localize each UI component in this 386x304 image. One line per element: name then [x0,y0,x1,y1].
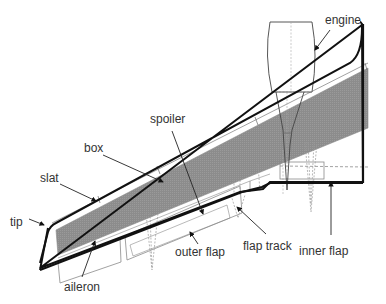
slat-leader [60,184,96,201]
label-inner-flap: inner flap [299,245,348,257]
label-tip: tip [10,216,23,228]
label-slat: slat [40,172,59,184]
flap-track-leader [237,207,266,234]
tip-leader [29,219,44,225]
box-leader [103,155,163,182]
label-engine: engine [325,14,361,26]
label-aileron: aileron [64,281,100,293]
label-spoiler: spoiler [150,113,185,125]
outer-flap-leader [190,232,198,244]
label-outer-flap: outer flap [175,246,225,258]
inner-flap-fairing [280,162,324,179]
engine-leader [315,30,330,50]
label-flap-track: flap track [243,240,292,252]
wing-box [56,68,368,255]
label-box: box [84,142,103,154]
